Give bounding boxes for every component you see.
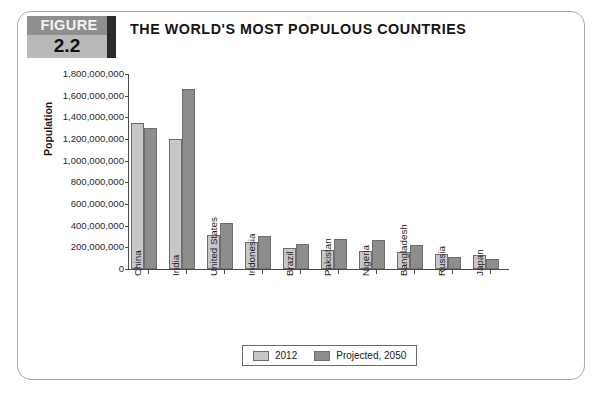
y-axis-tick-label: 1,800,000,000 <box>63 68 129 80</box>
y-axis-tick-label: 1,200,000,000 <box>63 133 129 145</box>
chart-title: THE WORLD'S MOST POPULOUS COUNTRIES <box>130 21 466 37</box>
bar-projected-2050 <box>448 257 461 269</box>
x-axis-label: Japan <box>474 249 485 276</box>
legend-swatch-2012 <box>253 351 269 361</box>
bar-group: Russia <box>433 74 471 269</box>
x-axis-label: Russia <box>436 246 447 276</box>
figure-number-tab: FIGURE 2.2 <box>27 16 124 58</box>
x-axis-tick-mark <box>376 269 377 274</box>
bar-projected-2050 <box>486 259 499 269</box>
y-axis-tick-label: 200,000,000 <box>71 241 129 253</box>
x-axis-label: Brazil <box>284 252 295 277</box>
y-axis-tick-label: 600,000,000 <box>71 198 129 210</box>
legend-label-projected-2050: Projected, 2050 <box>336 350 406 361</box>
bar-group: India <box>167 74 205 269</box>
bar-projected-2050 <box>372 240 385 269</box>
x-axis-label: Indonesia <box>246 234 257 277</box>
bar-projected-2050 <box>410 245 423 269</box>
legend-swatch-projected-2050 <box>314 351 330 361</box>
x-axis-label: Nigeria <box>360 245 371 276</box>
legend-item-2012: 2012 <box>253 350 297 361</box>
bar-projected-2050 <box>220 223 233 269</box>
x-axis-tick-mark <box>262 269 263 274</box>
x-axis-label: Pakistan <box>322 238 333 276</box>
y-axis-tick-label: 800,000,000 <box>71 176 129 188</box>
x-axis-label: China <box>132 250 143 276</box>
chart-plot-wrapper: 1,800,000,0001,600,000,0001,400,000,0001… <box>84 74 564 364</box>
x-axis-tick-mark <box>148 269 149 274</box>
x-axis-tick-mark <box>338 269 339 274</box>
legend-label-2012: 2012 <box>275 350 297 361</box>
chart-legend: 2012 Projected, 2050 <box>242 345 417 366</box>
bar-group: Indonesia <box>243 74 281 269</box>
bar-projected-2050 <box>258 236 271 269</box>
bar-group: Brazil <box>281 74 319 269</box>
x-axis-tick-mark <box>224 269 225 274</box>
x-axis-label: India <box>170 255 181 276</box>
bar-group: China <box>129 74 167 269</box>
figure-card: FIGURE 2.2 THE WORLD'S MOST POPULOUS COU… <box>17 11 585 380</box>
bar-2012 <box>169 139 182 269</box>
y-axis-tick-label: 1,000,000,000 <box>63 155 129 167</box>
bar-2012 <box>131 123 144 269</box>
bar-projected-2050 <box>144 128 157 269</box>
y-axis-tick-label: 1,600,000,000 <box>63 90 129 102</box>
bar-group: United States <box>205 74 243 269</box>
x-axis-tick-mark <box>186 269 187 274</box>
x-axis-label: United States <box>208 217 219 276</box>
figure-tab-edge <box>107 16 116 58</box>
x-axis-tick-mark <box>490 269 491 274</box>
bar-group: Japan <box>471 74 509 269</box>
y-axis-tick-label: 400,000,000 <box>71 220 129 232</box>
bar-group: Bangladesh <box>395 74 433 269</box>
bar-projected-2050 <box>296 244 309 269</box>
x-axis-tick-mark <box>300 269 301 274</box>
legend-item-projected-2050: Projected, 2050 <box>314 350 406 361</box>
figure-number: 2.2 <box>27 34 107 57</box>
y-axis-title: Population <box>42 74 56 184</box>
figure-label: FIGURE <box>31 17 107 34</box>
x-axis-tick-mark <box>414 269 415 274</box>
x-axis-tick-mark <box>452 269 453 274</box>
bar-group: Nigeria <box>357 74 395 269</box>
y-axis-tick-mark <box>125 269 129 270</box>
x-axis-label: Bangladesh <box>398 224 409 276</box>
bar-group: Pakistan <box>319 74 357 269</box>
bar-projected-2050 <box>334 239 347 269</box>
y-axis-tick-label: 1,400,000,000 <box>63 111 129 123</box>
plot-area: 1,800,000,0001,600,000,0001,400,000,0001… <box>128 74 509 270</box>
bar-projected-2050 <box>182 89 195 269</box>
